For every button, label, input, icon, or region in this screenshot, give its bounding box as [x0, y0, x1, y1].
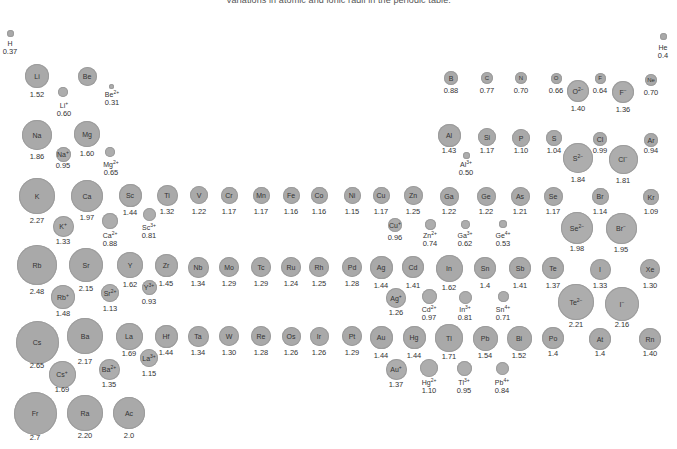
- radius-value: 1.60: [80, 150, 95, 158]
- ion-circle-sn-4plus: [498, 291, 509, 302]
- radius-value: 1.45: [159, 280, 174, 288]
- element-symbol: Rn: [646, 336, 655, 343]
- ion-label: Li+0.60: [57, 101, 72, 118]
- periodic-radii-chart: Li1.52BeB0.88C0.77N0.70O0.66O2−1.40F0.64…: [0, 0, 677, 449]
- element-symbol: Br: [597, 193, 604, 200]
- atom-circle-hf: Hf: [155, 325, 178, 348]
- element-symbol: Sr: [83, 262, 90, 269]
- element-symbol: Fe: [287, 192, 295, 199]
- element-symbol: Ge: [481, 193, 490, 200]
- atom-circle-bi: Bi: [507, 326, 532, 351]
- ion-label: Al3+0.50: [459, 160, 474, 177]
- element-symbol: Ga: [444, 193, 453, 200]
- element-symbol: P: [519, 135, 524, 142]
- radius-value: 1.44: [374, 282, 389, 290]
- element-symbol: Au+: [390, 365, 401, 373]
- radius-value: 2.48: [30, 288, 45, 296]
- ion-circle-be-2plus: [109, 84, 114, 89]
- radius-value: 1.86: [30, 153, 45, 161]
- ion-circle-f-minus: F−: [612, 81, 634, 103]
- element-symbol: K: [35, 193, 40, 200]
- element-symbol: In: [446, 265, 452, 272]
- atom-circle-sc: Sc: [119, 184, 142, 207]
- element-symbol: La: [125, 333, 133, 340]
- atom-circle-w: W: [219, 326, 239, 346]
- element-symbol: Sb: [516, 265, 525, 272]
- atom-circle-sr: Sr: [69, 248, 103, 282]
- radius-value: 1.52: [30, 91, 45, 99]
- element-symbol: W: [226, 333, 233, 340]
- atom-circle-xe: Xe: [640, 259, 660, 279]
- element-symbol: Cl: [597, 136, 604, 143]
- radius-value: 0.77: [480, 87, 495, 95]
- ion-circle-mg-2plus: [105, 147, 115, 157]
- atom-circle-os: Os: [282, 327, 301, 346]
- element-symbol: Hf: [163, 333, 170, 340]
- atom-circle-ru: Ru: [281, 257, 301, 277]
- radius-value: 1.25: [406, 208, 421, 216]
- atom-circle-he: [660, 33, 667, 40]
- radius-value: 1.21: [513, 208, 528, 216]
- element-symbol: Po: [549, 335, 558, 342]
- radius-value: 1.40: [643, 350, 658, 358]
- radius-value: 0.94: [644, 147, 659, 155]
- atom-circle-br: Br: [592, 188, 609, 205]
- radius-value: 2.27: [30, 217, 45, 225]
- atom-circle-ac: Ac: [113, 397, 145, 429]
- element-symbol: Cu+: [389, 221, 401, 229]
- atom-circle-ta: Ta: [188, 326, 209, 347]
- element-symbol: Ca: [83, 193, 92, 200]
- radius-value: 1.37: [389, 381, 404, 389]
- radius-value: 2.15: [79, 285, 94, 293]
- element-symbol: Ac: [125, 410, 133, 417]
- atom-circle-at: At: [589, 328, 611, 350]
- atom-circle-te: Te: [542, 257, 564, 279]
- radius-value: 1.22: [192, 208, 207, 216]
- ion-label: Zn2+0.74: [423, 231, 438, 248]
- atom-circle-ba: Ba: [67, 318, 103, 354]
- radius-value: 1.30: [643, 282, 658, 290]
- element-symbol: At: [597, 336, 604, 343]
- radius-value: 0.93: [142, 298, 157, 306]
- atom-circle-fr: Fr: [14, 392, 57, 435]
- atom-circle-fe: Fe: [283, 187, 300, 204]
- atom-circle-f: F: [595, 73, 606, 84]
- radius-value: 1.13: [103, 305, 118, 313]
- radius-value: 1.43: [442, 147, 457, 155]
- atom-circle-h: [7, 30, 14, 37]
- element-symbol: N: [519, 75, 523, 81]
- element-symbol: Ba: [81, 333, 90, 340]
- ion-label: Ca2+0.88: [103, 231, 118, 248]
- element-symbol: Kr: [648, 194, 655, 201]
- ion-circle-br-minus: Br−: [606, 213, 637, 244]
- ion-circle-sc-3plus: [143, 208, 156, 221]
- radius-value: 1.97: [80, 214, 95, 222]
- element-symbol: I: [599, 266, 601, 273]
- atom-circle-o: O: [551, 73, 562, 84]
- radius-value: 2.17: [78, 358, 93, 366]
- element-symbol: Cd: [409, 264, 418, 271]
- radius-value: 1.16: [312, 208, 327, 216]
- atom-circle-cs: Cs: [16, 321, 59, 364]
- element-symbol: F: [598, 75, 602, 81]
- element-symbol: Ru: [287, 264, 296, 271]
- element-symbol: S: [552, 135, 557, 142]
- element-symbol: Ba2+: [102, 365, 116, 373]
- element-symbol: Fr: [32, 410, 39, 417]
- ion-label: Sc3+0.81: [142, 223, 157, 240]
- element-symbol: As: [516, 193, 524, 200]
- element-symbol: Ar: [648, 137, 655, 144]
- ion-circle-na-plus: Na+: [56, 147, 71, 162]
- radius-value: 1.09: [644, 208, 659, 216]
- radius-value: 1.41: [406, 282, 421, 290]
- element-symbol: Na: [33, 132, 42, 139]
- element-symbol: Te2−: [569, 298, 582, 306]
- atom-circle-ga: Ga: [440, 187, 459, 206]
- element-symbol: C: [485, 75, 489, 81]
- radius-value: 1.44: [159, 349, 174, 357]
- atom-circle-p: P: [512, 129, 530, 147]
- element-symbol: Rb: [33, 262, 42, 269]
- ion-label: In3+0.81: [458, 305, 473, 322]
- element-symbol: Sc: [126, 192, 134, 199]
- element-symbol: F−: [619, 88, 626, 96]
